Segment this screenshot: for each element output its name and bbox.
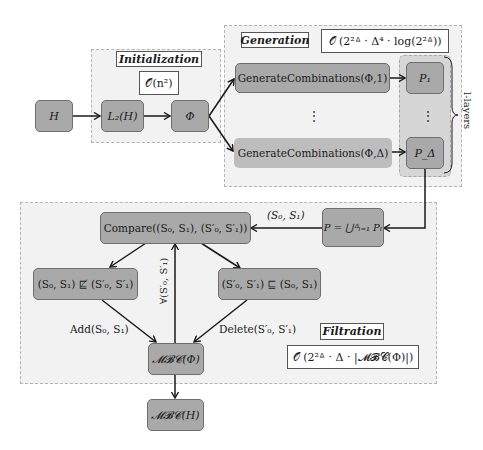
l-layers-label: l-layers (462, 92, 473, 129)
node-mbc-h: 𝓜𝓑𝓒(H) (147, 399, 204, 431)
algorithm-flow-diagram: Initialization 𝒪(n²) Generation 𝒪 (2²ᐞ ·… (0, 0, 483, 450)
vertical-ellipsis-p: ⋮ (422, 114, 428, 118)
l-layers-brace (444, 57, 458, 173)
node-phi: Φ (171, 100, 209, 132)
node-h: H (35, 100, 73, 132)
edge-compare-to-notsubsumed (110, 243, 146, 267)
node-not-subsumed: (S₀, S₁) ⋢ (S′₀, S′₁) (33, 268, 138, 300)
node-p1: P₁ (406, 62, 444, 94)
edge-label-forall: ∀(S′₀, S′₁) (158, 258, 169, 304)
edge-label-add: Add(S₀, S₁) (70, 323, 129, 335)
node-generate-combinations-1: GenerateCombinations(Φ,1) (235, 63, 390, 93)
node-generate-combinations-delta: GenerateCombinations(Φ,Δ) (234, 138, 392, 168)
edge-label-pair: (S₀, S₁) (267, 209, 305, 221)
edge-phi-to-gendelta (209, 116, 233, 151)
edge-compare-to-subsumed (201, 243, 240, 268)
node-pdelta: P_Δ (406, 137, 444, 169)
node-mbc-phi: 𝓜𝓑𝓒(Φ) (148, 343, 204, 375)
node-subsumed: (S′₀, S′₁) ⊑ (S₀, S₁) (218, 268, 321, 300)
node-compare: Compare((S₀, S₁), (S′₀, S′₁)) (100, 212, 251, 244)
edge-label-delete: Delete(S′₀, S′₁) (219, 323, 296, 335)
edge-subsumed-to-mbcphi (194, 300, 247, 342)
node-p-union: P = ⋃ᐞₗ₌₁ Pₗ (322, 208, 384, 247)
node-l2h: L₂(H) (101, 100, 144, 132)
vertical-ellipsis-gen: ⋮ (308, 114, 314, 118)
edge-pdelta-to-punion (384, 168, 425, 228)
edge-phi-to-gen1 (209, 79, 234, 116)
edge-notsubsumed-to-mbcphi (102, 300, 156, 342)
